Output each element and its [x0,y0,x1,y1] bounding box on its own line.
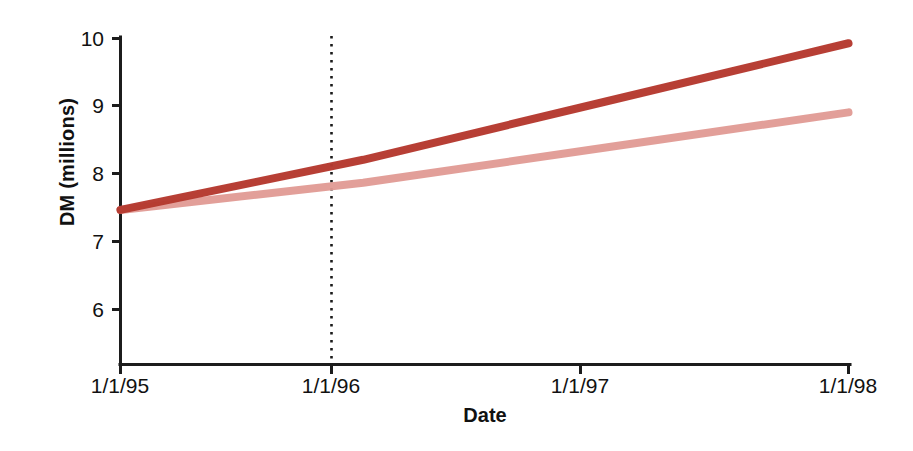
x-tick-label-1-1-97: 1/1/97 [520,375,640,396]
axis-lines [112,37,850,374]
y-tick-label-8: 8 [58,163,104,184]
x-axis-title: Date [120,404,850,427]
y-tick-label-6: 6 [58,299,104,320]
y-axis-title: DM (millions) [52,32,82,292]
y-tick-label-10: 10 [58,28,104,49]
y-tick-label-9: 9 [58,95,104,116]
x-tick-label-1-1-96: 1/1/96 [271,375,391,396]
x-tick-label-1-1-95: 1/1/95 [60,375,180,396]
y-tick-label-7: 7 [58,231,104,252]
x-tick-label-1-1-98: 1/1/98 [788,375,908,396]
chart-figure: DM (millions) 10 9 8 7 6 1/1/95 1/1/96 1… [0,0,913,451]
